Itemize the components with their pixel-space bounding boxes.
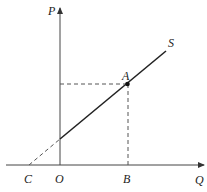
- supply-extension-dashed: [29, 139, 60, 165]
- origin-label-o: O: [55, 172, 64, 186]
- supply-diagram: P Q O C B A S: [0, 0, 207, 192]
- supply-curve: [60, 51, 166, 139]
- curve-label-s: S: [168, 36, 174, 50]
- axis-label-p: P: [47, 4, 56, 18]
- axis-label-q: Q: [195, 173, 204, 187]
- point-label-b: B: [123, 172, 131, 186]
- point-label-c: C: [24, 172, 33, 186]
- point-label-a: A: [121, 69, 130, 83]
